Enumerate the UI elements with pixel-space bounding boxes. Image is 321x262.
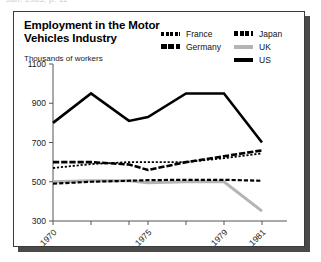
legend-column-2: Japan UK US (234, 27, 282, 66)
legend-label-japan: Japan (259, 29, 282, 39)
legend-swatch-us-icon (234, 58, 253, 62)
chart-card: Employment in the Motor Vehicles Industr… (13, 11, 305, 247)
legend-swatch-france-icon (161, 32, 180, 36)
legend-item-us[interactable]: US (234, 53, 282, 66)
legend-column-1: France Germany (161, 27, 221, 53)
x-tick-label: 1981 (247, 227, 268, 248)
y-axis-ticks (49, 64, 53, 221)
x-axis-ticks (53, 221, 262, 225)
legend-label-us: US (259, 55, 271, 65)
x-axis-labels: 1970197519791981 (38, 227, 268, 248)
legend-label-france: France (186, 29, 212, 39)
data-series-group (53, 93, 262, 211)
series-line-us (53, 93, 262, 142)
x-tick-label: 1975 (133, 227, 154, 248)
card-shadow-right (305, 16, 310, 251)
x-tick-label: 1979 (209, 227, 230, 248)
y-tick-label: 300 (32, 216, 46, 226)
x-tick-label: 1970 (38, 227, 59, 248)
legend-item-germany[interactable]: Germany (161, 40, 221, 53)
series-line-japan (53, 180, 262, 184)
legend-swatch-japan-icon (234, 31, 253, 36)
series-line-france (53, 153, 262, 168)
y-axis-labels: 1100900700500300 (28, 59, 47, 226)
card-shadow-bottom (18, 247, 310, 252)
legend-label-germany: Germany (186, 42, 221, 52)
legend-item-japan[interactable]: Japan (234, 27, 282, 40)
y-axis-caption: Thousands of workers (24, 54, 103, 63)
y-tick-label: 500 (32, 177, 46, 187)
y-tick-label: 700 (32, 138, 46, 148)
cropped-header-text: Jan. 1983, p. 11 (6, 0, 68, 4)
legend-swatch-germany-icon (161, 44, 180, 49)
legend-item-france[interactable]: France (161, 27, 221, 40)
y-tick-label: 900 (32, 98, 46, 108)
legend-label-uk: UK (259, 42, 271, 52)
series-line-uk (53, 181, 262, 211)
series-line-germany (53, 150, 262, 170)
legend-item-uk[interactable]: UK (234, 40, 282, 53)
legend-swatch-uk-icon (234, 45, 253, 49)
cropped-header-strip: Jan. 1983, p. 11 (0, 0, 321, 10)
